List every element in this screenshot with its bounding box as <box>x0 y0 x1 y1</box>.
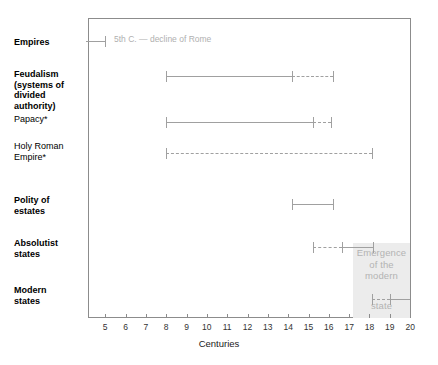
emergence-line-2: of the <box>350 259 413 271</box>
row-label-polity-line-2: estates <box>14 206 86 217</box>
row-label-polity-of-estates: Polity of estates <box>14 195 86 216</box>
row-label-modern-states: Modern states <box>14 285 86 306</box>
x-tick-label: 18 <box>360 322 378 332</box>
x-tick-label: 14 <box>279 322 297 332</box>
row-label-papacy: Papacy* <box>14 114 86 125</box>
x-tick-label: 8 <box>157 322 175 332</box>
emergence-annotation: Emergence of the modern state <box>350 247 413 311</box>
row-label-empires-text: Empires <box>14 37 86 48</box>
row-label-feudalism-line-3: divided <box>14 90 86 101</box>
timeline-segment <box>166 122 312 123</box>
timeline-endcap <box>372 294 373 305</box>
timeline-endcap <box>105 36 106 47</box>
x-tick-mark <box>105 314 106 318</box>
timeline-endcap <box>373 242 374 253</box>
x-tick-label: 13 <box>259 322 277 332</box>
x-tick-mark <box>349 314 350 318</box>
row-label-feudalism: Feudalism (systems of divided authority) <box>14 69 86 111</box>
x-tick-mark <box>288 314 289 318</box>
row-label-feudalism-line-1: Feudalism <box>14 69 86 80</box>
x-tick-label: 7 <box>137 322 155 332</box>
x-tick-label: 9 <box>178 322 196 332</box>
x-tick-mark <box>369 314 370 318</box>
row-label-holy-roman-empire: Holy Roman Empire* <box>14 141 86 162</box>
row-label-feudalism-line-4: authority) <box>14 101 86 112</box>
x-tick-mark <box>126 314 127 318</box>
timeline-segment <box>86 41 105 42</box>
timeline-endcap <box>292 199 293 210</box>
x-tick-label: 5 <box>96 322 114 332</box>
timeline-segment <box>292 204 333 205</box>
x-tick-label: 16 <box>320 322 338 332</box>
x-tick-label: 20 <box>401 322 419 332</box>
row-label-modern-line-2: states <box>14 296 86 307</box>
x-tick-mark <box>390 314 391 318</box>
row-label-absolutist-line-1: Absolutist <box>14 238 86 249</box>
x-tick-mark <box>268 314 269 318</box>
timeline-segment <box>166 153 371 154</box>
x-tick-label: 19 <box>381 322 399 332</box>
x-tick-mark <box>227 314 228 318</box>
timeline-endcap <box>342 242 343 253</box>
timeline-endcap <box>313 117 314 128</box>
decline-of-rome-annotation: 5th C. — decline of Rome <box>114 34 211 44</box>
timeline-segment <box>313 247 342 248</box>
timeline-endcap <box>390 294 391 305</box>
x-tick-label: 11 <box>218 322 236 332</box>
row-label-hre-line-2: Empire* <box>14 152 86 163</box>
row-label-absolutist-states: Absolutist states <box>14 238 86 259</box>
emergence-line-3: modern <box>350 270 413 282</box>
timeline-endcap <box>166 148 167 159</box>
row-label-modern-line-1: Modern <box>14 285 86 296</box>
timeline-segment <box>166 76 292 77</box>
timeline-endcap <box>166 71 167 82</box>
timeline-endcap <box>333 199 334 210</box>
x-tick-label: 15 <box>300 322 318 332</box>
x-tick-mark <box>146 314 147 318</box>
x-tick-label: 17 <box>340 322 358 332</box>
row-label-empires: Empires <box>14 37 86 48</box>
x-tick-label: 10 <box>198 322 216 332</box>
x-tick-mark <box>329 314 330 318</box>
row-label-absolutist-line-2: states <box>14 249 86 260</box>
x-tick-label: 12 <box>239 322 257 332</box>
x-tick-mark <box>187 314 188 318</box>
x-axis-title: Centuries <box>0 338 438 349</box>
x-tick-mark <box>166 314 167 318</box>
x-tick-label: 6 <box>117 322 135 332</box>
timeline-endcap <box>166 117 167 128</box>
row-label-papacy-text: Papacy* <box>14 114 86 125</box>
emergence-line-1: Emergence <box>350 247 413 259</box>
x-tick-mark <box>248 314 249 318</box>
timeline-endcap <box>372 148 373 159</box>
timeline-segment <box>372 299 390 300</box>
timeline-endcap <box>313 242 314 253</box>
timeline-segment <box>342 247 372 248</box>
timeline-segment <box>313 122 331 123</box>
timeline-endcap <box>331 117 332 128</box>
row-label-polity-line-1: Polity of <box>14 195 86 206</box>
x-tick-mark <box>309 314 310 318</box>
timeline-chart: Emergence of the modern state Empires Fe… <box>0 0 438 365</box>
timeline-endcap <box>292 71 293 82</box>
x-tick-mark <box>410 314 411 318</box>
emergence-line-4: state <box>350 300 413 312</box>
x-tick-mark <box>207 314 208 318</box>
timeline-segment <box>390 299 410 300</box>
timeline-endcap <box>333 71 334 82</box>
row-label-feudalism-line-2: (systems of <box>14 80 86 91</box>
timeline-segment <box>292 76 333 77</box>
row-label-hre-line-1: Holy Roman <box>14 141 86 152</box>
